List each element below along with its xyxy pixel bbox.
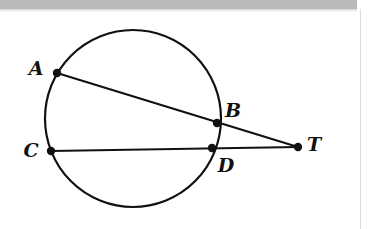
point-label-c: C [23, 141, 38, 160]
point-label-b: B [225, 101, 241, 120]
point-c-dot [47, 147, 55, 155]
circle-shape [45, 30, 221, 207]
point-label-a: A [29, 59, 44, 78]
point-a-dot [53, 69, 61, 77]
figure-page: A B C D T [0, 0, 375, 229]
point-d-dot [208, 144, 216, 152]
circle-geometry-diagram [0, 0, 375, 229]
point-label-d: D [218, 156, 234, 175]
point-t-dot [294, 143, 302, 151]
point-b-dot [213, 119, 221, 127]
point-label-t: T [307, 135, 321, 154]
